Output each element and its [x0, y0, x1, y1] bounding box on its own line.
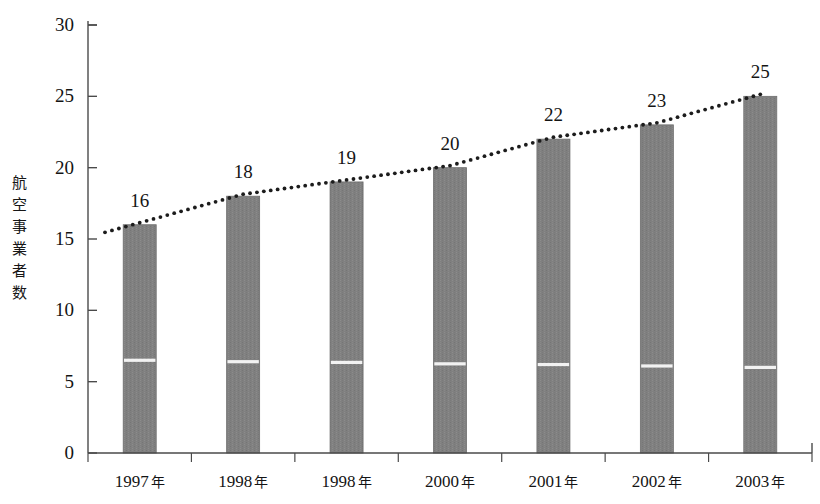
x-axis-tick-year: 1997 [115, 472, 149, 491]
trend-dot [103, 230, 107, 234]
trend-dot [469, 158, 473, 162]
bar-value-label: 25 [720, 62, 800, 81]
trend-dot [303, 184, 307, 188]
trend-dot [310, 183, 314, 187]
bar-value-label: 23 [617, 91, 697, 110]
trend-dot [627, 125, 631, 129]
trend-dot [669, 117, 673, 121]
trend-dot [117, 227, 121, 231]
x-axis-tick-label: 1998年 [193, 472, 293, 492]
bar [744, 96, 777, 453]
x-axis-tick-year: 2003 [735, 472, 769, 491]
trend-dot [434, 166, 438, 170]
x-axis-tick-unit: 年 [769, 474, 785, 490]
trend-dot [262, 189, 266, 193]
x-axis-tick-label: 2002年 [607, 472, 707, 492]
bar-value-label: 19 [307, 148, 387, 167]
trend-dot [386, 172, 390, 176]
trend-dot [227, 196, 231, 200]
bar-divider [434, 362, 465, 365]
trend-dot [496, 150, 500, 154]
x-axis-tick-label: 1997年 [90, 472, 190, 492]
bar-divider [124, 359, 155, 362]
trend-dot [683, 113, 687, 117]
trend-dot [214, 200, 218, 204]
trend-dot [503, 149, 507, 153]
trend-dot [731, 100, 735, 104]
bar [123, 225, 156, 453]
trend-dot [138, 221, 142, 225]
trend-dot [572, 132, 576, 136]
y-axis-tick-label: 30 [30, 15, 74, 34]
bar [640, 125, 673, 453]
bar-value-label: 22 [513, 105, 593, 124]
bar-divider [227, 360, 258, 363]
trend-dot [207, 202, 211, 206]
trend-dot [510, 147, 514, 151]
y-axis-tick-label: 5 [30, 372, 74, 391]
trend-dot [248, 191, 252, 195]
trend-dot [159, 215, 163, 219]
y-axis-tick-label: 25 [30, 86, 74, 105]
trend-dot [579, 131, 583, 135]
trend-dot [648, 122, 652, 126]
bar-divider [641, 364, 672, 367]
trend-dot [200, 204, 204, 208]
trend-dot [283, 187, 287, 191]
trend-dot [655, 121, 659, 125]
trend-dot [538, 139, 542, 143]
trend-dot [641, 123, 645, 127]
trend-dot [365, 175, 369, 179]
trend-dot [758, 92, 762, 96]
trend-dot [234, 194, 238, 198]
trend-dot [331, 180, 335, 184]
trend-dot [676, 115, 680, 119]
x-axis-tick-label: 1998年 [297, 472, 397, 492]
bar-value-label: 20 [410, 134, 490, 153]
trend-dot [552, 135, 556, 139]
trend-dot [379, 173, 383, 177]
trend-dot [193, 206, 197, 210]
trend-dot [586, 130, 590, 134]
trend-dot [489, 152, 493, 156]
trend-dot [524, 143, 528, 147]
trend-dot [751, 94, 755, 98]
trend-dot [358, 176, 362, 180]
trend-dot [738, 98, 742, 102]
trend-dot [593, 130, 597, 134]
bar [434, 168, 467, 453]
trend-dot [689, 111, 693, 115]
x-axis-tick-unit: 年 [666, 474, 682, 490]
x-axis-tick-label: 2003年 [710, 472, 810, 492]
x-axis-tick-year: 2000 [425, 472, 459, 491]
trend-dot [352, 177, 356, 181]
x-axis-tick-year: 2001 [528, 472, 562, 491]
y-axis-tick-label: 0 [30, 443, 74, 462]
bar-value-label: 16 [100, 191, 180, 210]
trend-dot [517, 145, 521, 149]
y-axis-tick-label: 10 [30, 300, 74, 319]
trend-dot [400, 170, 404, 174]
chart-plot-area [0, 0, 820, 504]
trend-dot [172, 211, 176, 215]
trend-dot [455, 162, 459, 166]
trend-dot [600, 129, 604, 133]
trend-dot [620, 126, 624, 130]
trend-dot [152, 217, 156, 221]
x-axis-tick-year: 2002 [632, 472, 666, 491]
trend-dot [614, 127, 618, 131]
trend-dot [124, 225, 128, 229]
trend-dot [483, 154, 487, 158]
trend-dot [255, 190, 259, 194]
trend-dot [110, 228, 114, 232]
trend-dot [179, 209, 183, 213]
trend-dot [545, 137, 549, 141]
trend-dot [393, 171, 397, 175]
trend-dot [317, 182, 321, 186]
trend-dot [421, 168, 425, 172]
trend-dot [717, 104, 721, 108]
trend-dot [145, 219, 149, 223]
trend-dot [276, 188, 280, 192]
x-axis-tick-year: 1998 [322, 472, 356, 491]
trend-dot [324, 181, 328, 185]
